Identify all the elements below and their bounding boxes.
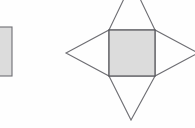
geometry-figure-svg	[0, 0, 195, 128]
left-rectangle-shape	[0, 27, 12, 76]
triangle-right-shape	[155, 30, 195, 76]
triangle-bottom-shape	[109, 76, 155, 120]
center-square-shape	[109, 30, 155, 76]
triangle-left-shape	[66, 30, 109, 76]
figure-canvas	[0, 0, 195, 128]
star-net-group	[66, 0, 195, 120]
triangle-top-shape	[109, 0, 155, 30]
